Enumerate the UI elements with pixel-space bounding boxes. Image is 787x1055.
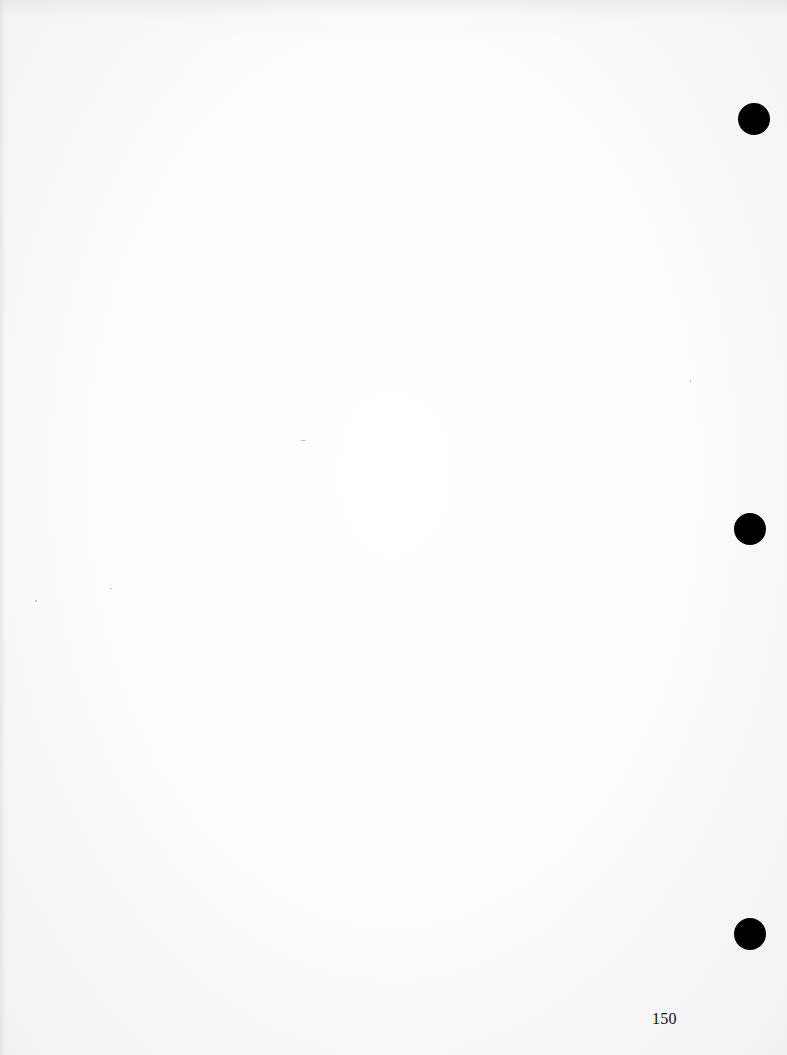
hole-punch-bottom-icon <box>734 918 766 950</box>
scan-artifact <box>690 380 691 382</box>
page-number: 150 <box>652 1010 677 1028</box>
page-edge-shadow <box>0 0 6 1055</box>
scanned-page: 150 <box>0 0 787 1055</box>
scan-artifact <box>35 600 37 602</box>
hole-punch-middle-icon <box>734 513 766 545</box>
scan-artifact <box>300 440 306 441</box>
hole-punch-top-icon <box>738 103 770 135</box>
scan-artifact <box>110 588 112 589</box>
